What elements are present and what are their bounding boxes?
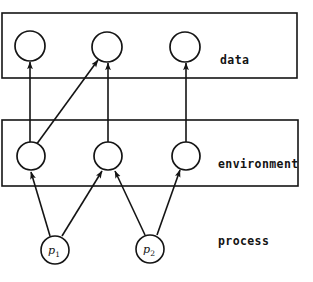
data-node-d3[interactable] — [170, 32, 200, 62]
environment-node-e2[interactable] — [94, 142, 122, 170]
edge-e1-d2 — [36, 60, 98, 145]
diagram-svg: p1p2 dataenvironmentprocess — [0, 0, 313, 282]
edge-p2-e3 — [157, 170, 180, 235]
data-node-d1[interactable] — [15, 31, 45, 61]
data-node-d2[interactable] — [92, 32, 122, 62]
environment-node-e1[interactable] — [17, 142, 45, 170]
band-rect-data — [2, 13, 297, 78]
band-label-environment: environment — [218, 157, 299, 171]
diagram-canvas: p1p2 dataenvironmentprocess — [0, 0, 313, 282]
edge-p1-e1 — [31, 172, 50, 236]
band-label-data: data — [220, 53, 249, 67]
edge-p2-e2 — [115, 171, 145, 235]
band-labels-group: dataenvironmentprocess — [218, 53, 299, 248]
environment-node-e3[interactable] — [172, 142, 200, 170]
edge-p1-e2 — [62, 171, 102, 236]
band-label-process: process — [218, 234, 269, 248]
